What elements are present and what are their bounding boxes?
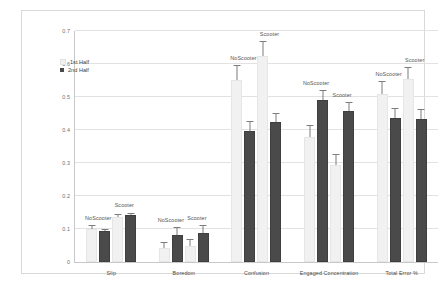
- error-bar-cap: [88, 225, 95, 226]
- error-bar-cap: [161, 242, 168, 243]
- bar-slot: [184, 31, 197, 262]
- category-axis-label: Total Error %: [385, 270, 417, 276]
- bar-slot: [376, 31, 389, 262]
- bar-second-half[interactable]: [416, 119, 427, 262]
- bar-second-half[interactable]: [198, 233, 209, 262]
- condition-pair: Scooter: [184, 31, 210, 262]
- bar-second-half[interactable]: [244, 131, 255, 262]
- condition-pair: Scooter: [329, 31, 355, 262]
- bar-first-half[interactable]: [257, 56, 268, 262]
- plot-area: 00.10.20.30.40.50.60.7 NoScooterScooterS…: [74, 31, 438, 263]
- bar-first-half[interactable]: [231, 80, 242, 262]
- condition-pair: Scooter: [256, 31, 282, 262]
- y-axis-tick-label: 0.5: [62, 94, 70, 100]
- bar-second-half[interactable]: [343, 111, 354, 262]
- bar-slot: [303, 31, 316, 262]
- bar-group: NoScooterScooterBoredom: [148, 31, 221, 262]
- error-bar-cap: [233, 65, 240, 66]
- bar-slot: [171, 31, 184, 262]
- condition-pair: NoScooter: [158, 31, 184, 262]
- y-axis-tick-label: 0.2: [62, 193, 70, 199]
- bar-group: NoScooterScooterEngaged Concentration: [293, 31, 366, 262]
- error-bar-cap: [259, 41, 266, 42]
- error-bar-cap: [332, 154, 339, 155]
- bar-first-half[interactable]: [330, 165, 341, 262]
- condition-label: Scooter: [115, 202, 134, 208]
- bar-slot: [342, 31, 355, 262]
- bar-slot: [316, 31, 329, 262]
- category-axis-label: Engaged Concentration: [300, 270, 359, 276]
- condition-label: Scooter: [187, 215, 206, 221]
- condition-pair: Scooter: [402, 31, 428, 262]
- y-axis-tick-label: 0.1: [62, 226, 70, 232]
- bar-second-half[interactable]: [270, 122, 281, 262]
- bar-slot: [415, 31, 428, 262]
- bar-slot: [111, 31, 124, 262]
- condition-label: NoScooter: [230, 55, 256, 61]
- error-bar-cap: [200, 225, 207, 226]
- bar-first-half[interactable]: [403, 79, 414, 262]
- condition-label: Scooter: [332, 92, 351, 98]
- bar-slot: [243, 31, 256, 262]
- legend-item[interactable]: 1st Half: [60, 59, 89, 65]
- chart-frame: 00.10.20.30.40.50.60.7 NoScooterScooterS…: [21, 10, 425, 274]
- legend-swatch-icon: [60, 68, 64, 72]
- bar-first-half[interactable]: [112, 217, 123, 262]
- bar-first-half[interactable]: [86, 229, 97, 262]
- error-bar-cap: [187, 239, 194, 240]
- category-axis-label: Confusion: [244, 270, 269, 276]
- condition-pair: NoScooter: [376, 31, 402, 262]
- error-bar-cap: [306, 125, 313, 126]
- error-bar-cap: [392, 108, 399, 109]
- condition-label: NoScooter: [375, 71, 401, 77]
- condition-pair: NoScooter: [85, 31, 111, 262]
- y-axis-tick-label: 0.4: [62, 127, 70, 133]
- bar-slot: [98, 31, 111, 262]
- y-axis-tick-label: 0.7: [62, 28, 70, 34]
- bar-second-half[interactable]: [172, 235, 183, 262]
- bar-group: NoScooterScooterConfusion: [220, 31, 293, 262]
- legend-swatch-icon: [60, 59, 66, 65]
- error-bar-cap: [127, 213, 134, 214]
- bar-second-half[interactable]: [99, 231, 110, 262]
- y-axis-tick-label: 0: [67, 259, 70, 265]
- bar-slot: [230, 31, 243, 262]
- bar-slot: [389, 31, 402, 262]
- bar-second-half[interactable]: [125, 215, 136, 262]
- legend-label: 1st Half: [70, 59, 89, 65]
- bar-first-half[interactable]: [159, 248, 170, 262]
- error-bar-cap: [379, 81, 386, 82]
- error-bar-cap: [345, 102, 352, 103]
- condition-pair: Scooter: [111, 31, 137, 262]
- error-bar-cap: [418, 109, 425, 110]
- bar-first-half[interactable]: [304, 137, 315, 262]
- y-axis-tick-label: 0.3: [62, 160, 70, 166]
- bar-first-half[interactable]: [185, 246, 196, 262]
- bar-slot: [158, 31, 171, 262]
- chart-legend: 1st Half2nd Half: [60, 59, 89, 75]
- error-bar-cap: [405, 67, 412, 68]
- condition-pair: NoScooter: [303, 31, 329, 262]
- condition-label: NoScooter: [158, 217, 184, 223]
- legend-item[interactable]: 2nd Half: [60, 67, 89, 73]
- category-axis-label: Slip: [107, 270, 116, 276]
- error-bar-cap: [246, 121, 253, 122]
- legend-label: 2nd Half: [68, 67, 89, 73]
- bar-slot: [402, 31, 415, 262]
- bar-first-half[interactable]: [377, 94, 388, 262]
- bar-second-half[interactable]: [390, 118, 401, 262]
- condition-label: Scooter: [260, 31, 279, 37]
- condition-label: Scooter: [405, 57, 424, 63]
- category-axis-label: Boredom: [173, 270, 196, 276]
- bar-second-half[interactable]: [317, 100, 328, 262]
- bar-group: NoScooterScooterTotal Error %: [365, 31, 438, 262]
- bar-groups: NoScooterScooterSlipNoScooterScooterBore…: [75, 31, 438, 262]
- error-bar-cap: [174, 227, 181, 228]
- bar-slot: [124, 31, 137, 262]
- condition-label: NoScooter: [303, 80, 329, 86]
- error-bar-cap: [101, 229, 108, 230]
- condition-label: NoScooter: [85, 215, 111, 221]
- bar-slot: [269, 31, 282, 262]
- bar-slot: [256, 31, 269, 262]
